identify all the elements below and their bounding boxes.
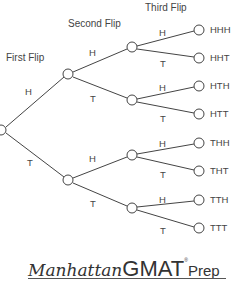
logo-prep: Prep (188, 262, 220, 279)
node-th (127, 150, 137, 160)
branch-label: T (90, 94, 96, 104)
outcome-label: HHH (210, 25, 231, 35)
outcome-label: HTT (210, 109, 228, 119)
branch-label: H (89, 154, 96, 164)
outcome-label: THH (210, 138, 230, 148)
branch-label: H (159, 83, 166, 93)
branch-label: H (159, 195, 166, 205)
logo-manhattan: Manhattan (28, 260, 122, 280)
node-h (63, 69, 73, 79)
node-t (63, 175, 73, 185)
node-tt (127, 203, 137, 213)
header-second-flip: Second Flip (68, 19, 121, 29)
header-third-flip: Third Flip (145, 3, 187, 13)
branch-label: H (89, 48, 96, 58)
outcome-label: HTH (210, 81, 230, 91)
branch-label: T (27, 158, 33, 168)
branch-label: T (160, 226, 166, 236)
outcome-label: THT (210, 166, 228, 176)
tree-lines (0, 0, 241, 284)
branch-label: T (160, 59, 166, 69)
outcome-label: TTT (210, 223, 227, 233)
branch-label: T (160, 114, 166, 124)
branch-label: T (90, 199, 96, 209)
branch-label: H (159, 28, 166, 38)
manhattan-gmat-logo: ManhattanGMAT®Prep (28, 256, 228, 278)
branch-label: T (160, 170, 166, 180)
header-first-flip: First Flip (6, 53, 44, 63)
branch-label: H (159, 139, 166, 149)
root-node (0, 125, 6, 135)
node-ht (127, 95, 137, 105)
logo-underline (28, 278, 226, 279)
outcome-label: TTH (210, 195, 228, 205)
outcome-label: HHT (210, 53, 230, 63)
node-hh (127, 42, 137, 52)
branch-label: H (25, 87, 32, 97)
